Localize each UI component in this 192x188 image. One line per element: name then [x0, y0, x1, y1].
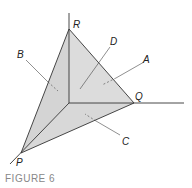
figure-caption: FIGURE 6	[5, 173, 55, 184]
face-label-D: D	[110, 36, 117, 47]
vertex-label-R: R	[73, 19, 80, 30]
tetrahedron-diagram: R Q P B D A C FIGURE 6	[0, 0, 192, 188]
face-label-A: A	[142, 54, 150, 65]
face-label-C: C	[122, 136, 130, 147]
leader-B	[26, 60, 48, 82]
face-label-B: B	[17, 49, 24, 60]
vertex-label-Q: Q	[135, 91, 143, 102]
leader-A	[116, 62, 144, 78]
leader-C	[96, 121, 120, 135]
vertex-label-P: P	[16, 157, 23, 168]
